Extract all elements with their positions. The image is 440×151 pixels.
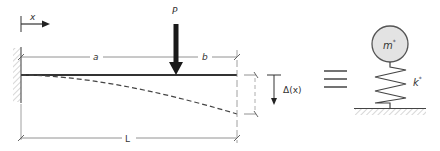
dimension-b-label: b (202, 52, 208, 62)
spring (375, 62, 406, 108)
equivalence-icon (324, 71, 347, 87)
deflection-label: Δ(x) (283, 85, 302, 95)
dimension-L: L (18, 104, 240, 144)
stiffness-label: k* (413, 75, 422, 88)
load-label: P (172, 6, 178, 16)
dimension-L-label: L (125, 134, 130, 144)
wall-hatching (13, 48, 21, 102)
arrow-down-icon (271, 98, 277, 105)
dimension-a-label: a (93, 52, 99, 62)
x-label: x (29, 12, 36, 22)
beam-diagram: x a b P Δ(x) (0, 0, 440, 151)
x-axis-indicator: x (21, 12, 50, 32)
sdof-system: m* k* (354, 26, 426, 115)
ground-hatching (355, 109, 426, 115)
deflected-shape (21, 75, 237, 114)
arrow-right-icon (42, 21, 50, 28)
fixed-support (13, 47, 21, 103)
arrow-down-icon (169, 62, 183, 75)
dimension-a-b: a b (18, 52, 240, 62)
deflection-dimension: Δ(x) (244, 72, 302, 117)
point-load: P (169, 6, 183, 75)
